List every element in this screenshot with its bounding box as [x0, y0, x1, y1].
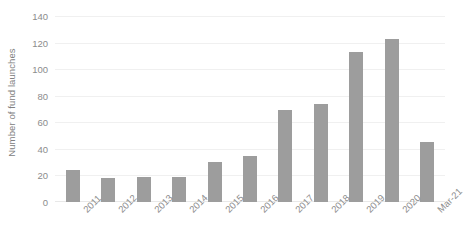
- y-axis-tick-label: 20: [37, 170, 48, 181]
- bar[interactable]: [420, 142, 434, 202]
- bar-slot: [232, 16, 267, 202]
- y-axis-title: Number of fund launches: [0, 0, 22, 205]
- bar-slot: [339, 16, 374, 202]
- bar[interactable]: [243, 156, 257, 203]
- bar-slot: [90, 16, 125, 202]
- x-axis-tick-labels: 2011201220132014201520162017201820192020…: [55, 203, 445, 252]
- bar-slot: [410, 16, 445, 202]
- y-axis-tick-label: 80: [37, 90, 48, 101]
- bar-slot: [55, 16, 90, 202]
- y-axis-tick-label: 100: [32, 64, 48, 75]
- bar[interactable]: [314, 104, 328, 202]
- bar-slot: [126, 16, 161, 202]
- bar[interactable]: [172, 177, 186, 202]
- plot-area: [55, 16, 445, 202]
- bar-slot: [374, 16, 409, 202]
- y-axis-tick-label: 120: [32, 37, 48, 48]
- bar[interactable]: [66, 170, 80, 202]
- bar-slot: [161, 16, 196, 202]
- bar[interactable]: [385, 39, 399, 202]
- bar[interactable]: [208, 162, 222, 202]
- bar[interactable]: [349, 52, 363, 202]
- y-axis-title-label: Number of fund launches: [6, 48, 17, 156]
- bars-layer: [55, 16, 445, 202]
- y-axis-tick-label: 60: [37, 117, 48, 128]
- bar-slot: [197, 16, 232, 202]
- y-axis-tick-label: 0: [43, 197, 48, 208]
- bar-slot: [268, 16, 303, 202]
- bar-slot: [303, 16, 338, 202]
- y-axis-tick-label: 140: [32, 11, 48, 22]
- y-axis-tick-label: 40: [37, 143, 48, 154]
- y-axis-tick-labels: 020406080100120140: [22, 16, 52, 202]
- bar[interactable]: [278, 110, 292, 202]
- bar[interactable]: [137, 177, 151, 202]
- bar[interactable]: [101, 178, 115, 202]
